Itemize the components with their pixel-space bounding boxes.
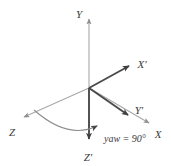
rotated-frame-axes xyxy=(89,66,129,139)
yaw-arc-path xyxy=(34,110,97,130)
y-prime-axis-label: Y' xyxy=(135,104,144,116)
y-axis-label: Y xyxy=(76,8,84,20)
x-prime-axis-label: X' xyxy=(136,58,147,70)
yaw-annotation-label: yaw = 90° xyxy=(103,133,146,144)
coordinate-frame-diagram: Y X Z X' Y' Z' yaw = 90° xyxy=(0,0,171,166)
x-axis-label: X xyxy=(154,128,163,140)
z-prime-axis-label: Z' xyxy=(84,151,93,163)
z-axis-line xyxy=(24,88,89,117)
x-prime-axis-line xyxy=(89,66,129,88)
figure-canvas: Y X Z X' Y' Z' yaw = 90° xyxy=(0,0,171,166)
fixed-frame-axes xyxy=(24,19,149,123)
yaw-arc-group xyxy=(34,110,97,130)
z-axis-label: Z xyxy=(9,126,16,138)
y-prime-axis-line xyxy=(89,88,128,115)
